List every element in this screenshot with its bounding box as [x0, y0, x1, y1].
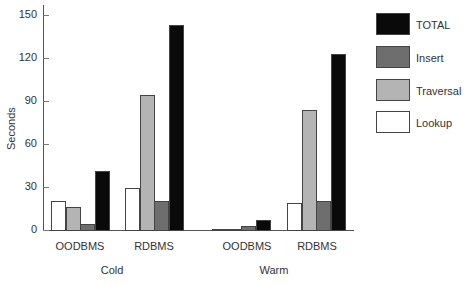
category-label-cold-oodbms: OODBMS	[45, 240, 115, 252]
bar-cold-rdbms-total	[169, 25, 184, 231]
legend-swatch-lookup	[376, 111, 410, 133]
category-label-warm-rdbms: RDBMS	[282, 240, 352, 252]
bar-cold-oodbms-lookup	[51, 201, 66, 231]
bar-warm-oodbms-lookup	[212, 229, 227, 231]
y-tick-label: 90	[7, 94, 37, 106]
legend-label-insert: Insert	[416, 52, 444, 64]
category-label-cold-rdbms: RDBMS	[119, 240, 189, 252]
bar-warm-oodbms-total	[256, 220, 271, 231]
y-tick	[43, 187, 49, 188]
legend-label-total: TOTAL	[416, 19, 450, 31]
bar-warm-rdbms-insert	[316, 201, 331, 231]
y-tick-label: 60	[7, 137, 37, 149]
bar-cold-oodbms-insert	[80, 224, 95, 231]
chart-root: Seconds 0 30 60 90 120 150 OODBMS RDBMS …	[0, 0, 467, 286]
y-tick	[43, 58, 49, 59]
bar-warm-oodbms-traversal	[227, 229, 242, 231]
y-tick	[43, 15, 49, 16]
y-tick-label: 120	[7, 51, 37, 63]
bar-cold-oodbms-traversal	[66, 207, 81, 231]
bar-cold-rdbms-traversal	[140, 95, 155, 231]
y-tick-label: 0	[7, 223, 37, 235]
legend-label-lookup: Lookup	[416, 117, 452, 129]
legend-swatch-traversal	[376, 79, 410, 101]
category-label-warm-oodbms: OODBMS	[212, 240, 282, 252]
y-tick	[43, 230, 49, 231]
legend-swatch-total	[376, 13, 410, 35]
group-label-warm: Warm	[249, 264, 299, 276]
bar-cold-oodbms-total	[95, 171, 110, 231]
y-tick-label: 150	[7, 8, 37, 20]
bar-warm-rdbms-lookup	[287, 203, 302, 231]
y-tick	[43, 101, 49, 102]
group-label-cold: Cold	[87, 264, 137, 276]
bar-cold-rdbms-insert	[154, 201, 169, 231]
y-tick	[43, 144, 49, 145]
bar-warm-rdbms-traversal	[302, 110, 317, 231]
bar-warm-oodbms-insert	[241, 226, 256, 231]
bar-cold-rdbms-lookup	[125, 188, 140, 231]
legend-label-traversal: Traversal	[416, 85, 461, 97]
legend-swatch-insert	[376, 46, 410, 68]
y-axis	[43, 5, 44, 231]
y-tick-label: 30	[7, 180, 37, 192]
bar-warm-rdbms-total	[331, 54, 346, 231]
